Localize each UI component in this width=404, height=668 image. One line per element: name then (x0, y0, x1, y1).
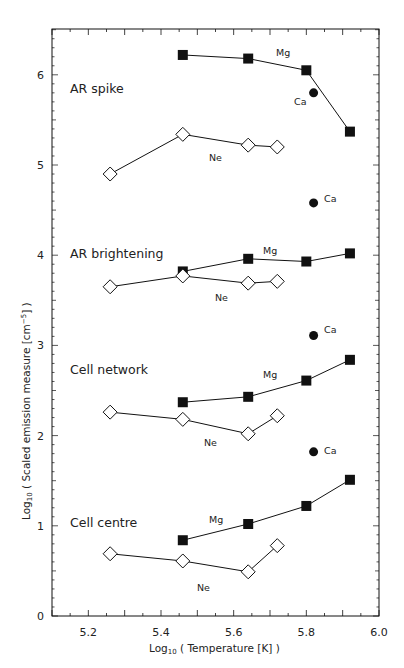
series-label-ne-cell-network: Ne (204, 437, 217, 448)
x-axis-title: Log10 ( Temperature [K] ) (149, 642, 280, 656)
panel-label-cell-network: Cell network (70, 362, 149, 377)
panel-label-cell-centre: Cell centre (70, 515, 138, 530)
ne-marker (270, 274, 284, 288)
mg-marker (178, 535, 188, 545)
y-tick-label: 4 (37, 249, 44, 262)
y-tick-label: 0 (37, 610, 44, 623)
ne-marker (270, 140, 284, 154)
ne-marker (103, 547, 117, 561)
ne-marker (176, 412, 190, 426)
series-label-ca-ar-brightening: Ca (324, 193, 336, 204)
ne-marker (103, 167, 117, 181)
data-series (103, 50, 355, 579)
ne-marker (241, 138, 255, 152)
panel-cell-centre (103, 447, 355, 578)
series-label-ne-ar-brightening: Ne (215, 292, 228, 303)
mg-marker (243, 392, 253, 402)
series-line-ne (110, 546, 277, 572)
series-label-ca-cell-network: Ca (324, 324, 336, 335)
series-line-mg (183, 55, 350, 132)
ca-marker (309, 88, 318, 97)
mg-marker (345, 355, 355, 365)
mg-marker (178, 397, 188, 407)
mg-marker (301, 501, 311, 511)
ne-marker (270, 409, 284, 423)
x-tick-label: 5.8 (298, 626, 316, 639)
ca-marker (309, 447, 318, 456)
ne-marker (176, 554, 190, 568)
panel-cell-network (103, 331, 355, 441)
mg-marker (301, 65, 311, 75)
ne-marker (103, 280, 117, 294)
y-tick-label: 3 (37, 339, 44, 352)
y-tick-label: 6 (37, 69, 44, 82)
series-label-mg-cell-network: Mg (263, 369, 277, 380)
series-line-ne (110, 134, 277, 174)
series-label-ne-ar-spike: Ne (209, 152, 222, 163)
mg-marker (243, 54, 253, 64)
y-axis-title: Log10 ( Scaled emission measure [cm−5] ) (20, 302, 34, 520)
y-tick-label: 2 (37, 430, 44, 443)
mg-marker (345, 127, 355, 137)
mg-marker (345, 475, 355, 485)
mg-marker (301, 376, 311, 386)
ne-marker (176, 127, 190, 141)
panel-ar-spike (103, 50, 355, 181)
series-line-mg (183, 360, 350, 402)
mg-marker (243, 254, 253, 264)
y-tick-label: 1 (37, 520, 44, 533)
series-label-ne-cell-centre: Ne (197, 582, 210, 593)
series-label-mg-cell-centre: Mg (209, 514, 223, 525)
series-label-mg-ar-brightening: Mg (263, 245, 277, 256)
ca-marker (309, 331, 318, 340)
mg-marker (243, 519, 253, 529)
series-label-mg-ar-spike: Mg (276, 47, 290, 58)
ca-marker (309, 198, 318, 207)
panel-label-ar-spike: AR spike (70, 81, 124, 96)
emission-measure-chart: 5.25.45.65.86.00123456 AR spike AR brigh… (0, 0, 404, 668)
series-label-ca-cell-centre: Ca (324, 445, 336, 456)
x-tick-label: 5.4 (152, 626, 170, 639)
mg-marker (301, 257, 311, 267)
y-tick-label: 5 (37, 159, 44, 172)
series-label-ca-ar-spike: Ca (294, 96, 306, 107)
series-line-mg (183, 253, 350, 271)
series-line-mg (183, 480, 350, 540)
x-tick-label: 6.0 (370, 626, 388, 639)
ne-marker (241, 427, 255, 441)
x-tick-label: 5.2 (80, 626, 98, 639)
ne-marker (241, 276, 255, 290)
ne-marker (103, 405, 117, 419)
mg-marker (345, 248, 355, 258)
panel-label-ar-brightening: AR brightening (70, 246, 163, 261)
mg-marker (178, 50, 188, 60)
x-tick-label: 5.6 (225, 626, 243, 639)
